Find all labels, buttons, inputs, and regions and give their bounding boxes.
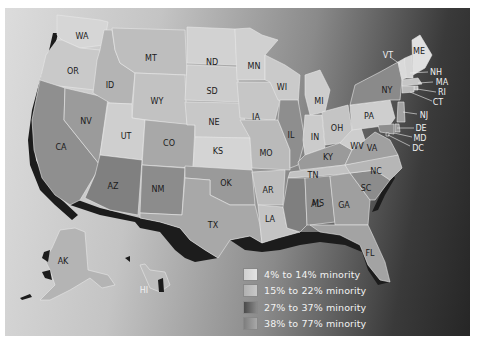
label-hi: HI: [140, 286, 148, 295]
label-nh: NH: [430, 68, 442, 77]
label-mt: MT: [145, 54, 157, 63]
label-co: CO: [163, 139, 175, 148]
label-ut: UT: [121, 132, 132, 141]
label-tx: TX: [207, 221, 219, 230]
label-id: ID: [106, 81, 115, 90]
label-dc: DC: [412, 144, 424, 153]
label-nd: ND: [206, 58, 218, 67]
leader-ct: [410, 92, 432, 101]
label-ky: KY: [323, 153, 333, 162]
state-or[interactable]: [40, 40, 100, 90]
label-ok: OK: [220, 179, 232, 188]
legend-label-4: 38% to 77% minority: [264, 318, 366, 329]
legend-label-2: 15% to 22% minority: [264, 285, 366, 296]
label-tn: TN: [307, 171, 319, 180]
leader-md: [394, 133, 412, 137]
label-wv: WV: [350, 142, 364, 151]
label-in: IN: [311, 133, 319, 142]
state-md[interactable]: [378, 124, 394, 134]
label-ca: CA: [55, 143, 67, 152]
label-wy: WY: [151, 97, 164, 106]
label-ak: AK: [58, 257, 69, 266]
label-sc: SC: [361, 184, 372, 193]
label-or: OR: [67, 67, 79, 76]
label-md: MD: [413, 134, 426, 143]
label-nj: NJ: [420, 111, 428, 120]
legend-swatch-2: [243, 284, 258, 297]
label-vt: VT: [383, 51, 393, 60]
label-ks: KS: [213, 147, 223, 156]
label-sd: SD: [206, 87, 217, 96]
state-nh[interactable]: [405, 55, 413, 78]
legend-swatch-1: [243, 268, 258, 281]
label-va: VA: [367, 144, 378, 153]
legend-item: 15% to 22% minority: [243, 283, 366, 300]
label-ma: MA: [436, 78, 449, 87]
label-az: AZ: [108, 182, 119, 191]
legend-swatch-4: [243, 317, 258, 330]
legend-label-3: 27% to 37% minority: [264, 302, 366, 313]
label-il: IL: [288, 131, 295, 140]
legend-item: 38% to 77% minority: [243, 316, 366, 333]
label-ar: AR: [262, 186, 273, 195]
state-ny[interactable]: [350, 62, 402, 105]
legend-item: 4% to 14% minority: [243, 266, 366, 283]
state-ms[interactable]: [283, 178, 307, 232]
label-la: LA: [265, 215, 276, 224]
label-ia: IA: [252, 113, 260, 122]
label-ne: NE: [208, 118, 219, 127]
label-nv: NV: [80, 117, 92, 126]
legend-label-1: 4% to 14% minority: [264, 269, 360, 280]
state-ak[interactable]: [40, 228, 115, 300]
map-frame: WA OR CA NV ID MT WY UT CO AZ NM ND SD N…: [5, 8, 470, 336]
state-ma[interactable]: [402, 78, 422, 86]
label-pa: PA: [364, 112, 374, 121]
label-al: AL: [311, 200, 321, 209]
label-ri: RI: [438, 88, 446, 97]
state-ri[interactable]: [414, 86, 418, 90]
leader-ri: [417, 89, 436, 92]
state-ct[interactable]: [402, 86, 414, 93]
legend-swatch-3: [243, 301, 258, 314]
label-me: ME: [413, 47, 425, 56]
leader-nj: [403, 112, 417, 114]
label-ga: GA: [338, 201, 350, 210]
label-mo: MO: [259, 149, 272, 158]
us-map: WA OR CA NV ID MT WY UT CO AZ NM ND SD N…: [5, 8, 470, 336]
label-oh: OH: [331, 124, 343, 133]
label-wa: WA: [76, 32, 89, 41]
label-ny: NY: [382, 86, 393, 95]
label-ct: CT: [433, 98, 444, 107]
label-mi: MI: [314, 97, 323, 106]
state-mi[interactable]: [305, 70, 330, 115]
label-wi: WI: [277, 83, 287, 92]
label-mn: MN: [248, 62, 261, 71]
label-fl: FL: [365, 249, 375, 258]
legend: 4% to 14% minority 15% to 22% minority 2…: [243, 266, 366, 332]
legend-item: 27% to 37% minority: [243, 299, 366, 316]
state-sd[interactable]: [185, 65, 240, 102]
label-de: DE: [415, 124, 426, 133]
label-nm: NM: [152, 185, 165, 194]
label-nc: NC: [370, 167, 382, 176]
